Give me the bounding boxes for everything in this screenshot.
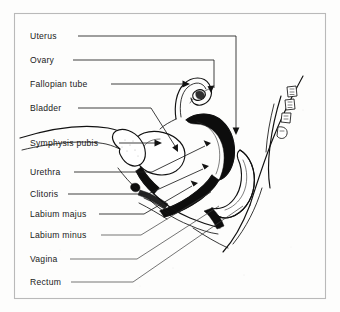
scan-speckle [60,110,304,287]
label-labium-majus: Labium majus [30,209,87,219]
label-bladder: Bladder [30,103,61,113]
vertebra-segment-1 [287,86,297,97]
label-labium-minus: Labium minus [30,230,87,240]
label-rectum: Rectum [30,277,61,287]
label-vagina: Vagina [30,254,58,264]
coccyx-segment [277,127,287,139]
label-uterus: Uterus [30,31,57,41]
sacrum-curve [269,96,282,188]
vertebra-segment-3 [281,113,291,123]
sagittal-section-diagram: Uterus Ovary Fallopian tube Bladder Symp… [0,0,340,312]
fallopian-tube-inner [180,83,206,117]
arrowhead-urethra [204,140,211,146]
broad-ligament [160,119,176,129]
vertebrae-group [277,86,297,138]
label-ovary: Ovary [30,55,55,65]
uterus-shape [186,114,235,180]
label-symphysis-pubis: Symphysis pubis [30,138,98,148]
label-urethra: Urethra [30,167,60,177]
label-fallopian-tube: Fallopian tube [30,79,88,89]
ovary-shading [196,91,205,99]
label-clitoris: Clitoris [30,189,58,199]
arrowhead-uterus [233,128,240,136]
vertebra-segment-2 [285,99,295,110]
anatomical-figure: Uterus Ovary Fallopian tube Bladder Symp… [0,0,340,312]
leader-uterus [78,36,236,128]
thigh-crease [193,228,228,248]
